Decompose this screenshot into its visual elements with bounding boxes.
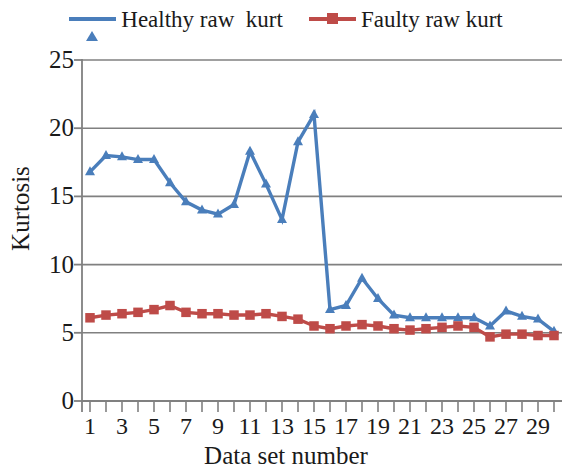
x-tick-label: 21 xyxy=(398,414,422,438)
x-tick-label: 9 xyxy=(212,414,224,438)
x-tick-label: 23 xyxy=(430,414,454,438)
x-tick-label: 1 xyxy=(84,414,96,438)
x-axis-title: Data set number xyxy=(0,443,572,468)
x-axis-tick-labels: 1357911131517192123252729 xyxy=(0,0,572,474)
x-tick-label: 17 xyxy=(334,414,358,438)
kurtosis-line-chart: Healthy raw kurt Faulty raw kurt 2520151… xyxy=(0,0,572,474)
x-tick-label: 15 xyxy=(302,414,326,438)
x-tick-label: 25 xyxy=(462,414,486,438)
x-tick-label: 19 xyxy=(366,414,390,438)
x-tick-label: 29 xyxy=(526,414,550,438)
x-tick-label: 5 xyxy=(148,414,160,438)
x-tick-label: 11 xyxy=(238,414,261,438)
plot-area: 2520151050 1357911131517192123252729 Kur… xyxy=(0,0,572,474)
x-tick-label: 7 xyxy=(180,414,192,438)
y-axis-title: Kurtosis xyxy=(8,129,33,289)
x-tick-label: 27 xyxy=(494,414,518,438)
x-tick-label: 3 xyxy=(116,414,128,438)
x-tick-label: 13 xyxy=(270,414,294,438)
